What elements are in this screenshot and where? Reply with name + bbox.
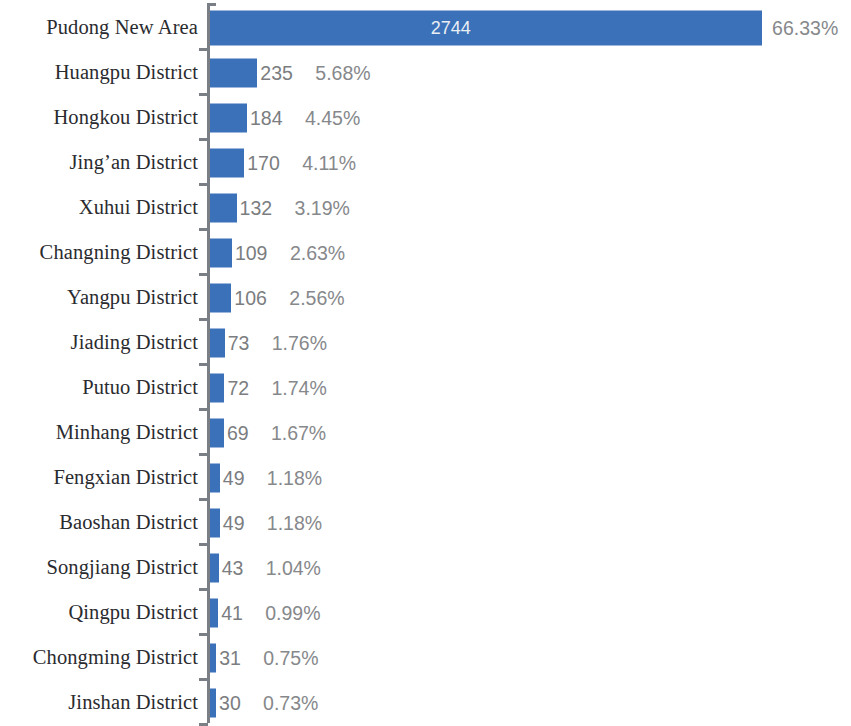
bar-row: Jinshan District300.73% <box>0 680 851 725</box>
bar-percent-label: 4.45% <box>305 106 360 129</box>
bar-row: Fengxian District491.18% <box>0 455 851 500</box>
bar-plot-area: 1844.45% <box>210 95 851 140</box>
category-label: Changning District <box>0 230 198 275</box>
bar-percent-label: 1.67% <box>271 421 326 444</box>
bar-plot-area: 721.74% <box>210 365 851 410</box>
bar <box>210 238 232 267</box>
bar-percent-label: 5.68% <box>315 61 370 84</box>
bar-value-label: 72 <box>227 376 249 399</box>
bar-plot-area: 491.18% <box>210 500 851 545</box>
bar <box>210 58 257 87</box>
bar-row: Songjiang District431.04% <box>0 545 851 590</box>
bar-plot-area: 2355.68% <box>210 50 851 95</box>
bar-percent-label: 2.63% <box>290 241 345 264</box>
category-label: Fengxian District <box>0 455 198 500</box>
bar-value-label: 184 <box>250 106 283 129</box>
bar-plot-area: 691.67% <box>210 410 851 455</box>
bar-row: Changning District1092.63% <box>0 230 851 275</box>
category-label: Putuo District <box>0 365 198 410</box>
bar-percent-label: 1.74% <box>271 376 326 399</box>
bar-value-label: 109 <box>235 241 268 264</box>
bar-value-label: 170 <box>247 151 280 174</box>
category-label: Chongming District <box>0 635 198 680</box>
bar-plot-area: 1323.19% <box>210 185 851 230</box>
bar-value-label: 49 <box>223 466 245 489</box>
category-label: Xuhui District <box>0 185 198 230</box>
bar <box>210 328 225 357</box>
bar-row: Putuo District721.74% <box>0 365 851 410</box>
bar-percent-label: 2.56% <box>289 286 344 309</box>
bar <box>210 643 216 672</box>
bar-row: Baoshan District491.18% <box>0 500 851 545</box>
category-label: Minhang District <box>0 410 198 455</box>
bar-plot-area: 1062.56% <box>210 275 851 320</box>
bar-percent-label: 1.76% <box>272 331 327 354</box>
bar-percent-label: 1.18% <box>267 466 322 489</box>
bar-value-label: 2744 <box>431 17 471 38</box>
category-label: Qingpu District <box>0 590 198 635</box>
bar-value-label: 30 <box>219 691 241 714</box>
bar-plot-area: 274466.33% <box>210 5 851 50</box>
bar-plot-area: 431.04% <box>210 545 851 590</box>
bar-value-label: 235 <box>260 61 293 84</box>
bar-percent-label: 66.33% <box>772 16 838 39</box>
bar-plot-area: 491.18% <box>210 455 851 500</box>
bar-plot-area: 310.75% <box>210 635 851 680</box>
bar-row: Hongkou District1844.45% <box>0 95 851 140</box>
bar <box>210 463 220 492</box>
bar <box>210 553 219 582</box>
bar-value-label: 69 <box>227 421 249 444</box>
bar-percent-label: 0.75% <box>263 646 318 669</box>
bar-plot-area: 300.73% <box>210 680 851 725</box>
bar-percent-label: 1.18% <box>267 511 322 534</box>
bar-row: Qingpu District410.99% <box>0 590 851 635</box>
category-label: Jiading District <box>0 320 198 365</box>
bar-plot-area: 731.76% <box>210 320 851 365</box>
bar <box>210 10 762 45</box>
category-label: Hongkou District <box>0 95 198 140</box>
category-label: Yangpu District <box>0 275 198 320</box>
bar-value-label: 31 <box>219 646 241 669</box>
bar <box>210 373 224 402</box>
bar-percent-label: 1.04% <box>266 556 321 579</box>
bar <box>210 598 218 627</box>
bar-value-label: 49 <box>223 511 245 534</box>
bar <box>210 103 247 132</box>
bar-percent-label: 3.19% <box>295 196 350 219</box>
bar <box>210 418 224 447</box>
category-label: Huangpu District <box>0 50 198 95</box>
bar-row: Minhang District691.67% <box>0 410 851 455</box>
bar-percent-label: 0.73% <box>263 691 318 714</box>
bar-value-label: 41 <box>221 601 243 624</box>
bar <box>210 688 216 717</box>
bar <box>210 148 244 177</box>
bar-row: Xuhui District1323.19% <box>0 185 851 230</box>
category-label: Pudong New Area <box>0 5 198 50</box>
bar-value-label: 43 <box>222 556 244 579</box>
bar-row: Yangpu District1062.56% <box>0 275 851 320</box>
bar-percent-label: 0.99% <box>265 601 320 624</box>
bar-row: Jing’an District1704.11% <box>0 140 851 185</box>
category-label: Jing’an District <box>0 140 198 185</box>
bar-row: Jiading District731.76% <box>0 320 851 365</box>
category-label: Songjiang District <box>0 545 198 590</box>
bar <box>210 508 220 537</box>
category-label: Jinshan District <box>0 680 198 725</box>
bar-plot-area: 1704.11% <box>210 140 851 185</box>
bar-value-label: 132 <box>240 196 273 219</box>
bar-value-label: 106 <box>234 286 267 309</box>
bar-row: Pudong New Area274466.33% <box>0 5 851 50</box>
bar-value-label: 73 <box>228 331 250 354</box>
bar <box>210 283 231 312</box>
bar-plot-area: 410.99% <box>210 590 851 635</box>
bar <box>210 193 237 222</box>
bar-row: Huangpu District2355.68% <box>0 50 851 95</box>
bar-percent-label: 4.11% <box>302 151 356 174</box>
category-label: Baoshan District <box>0 500 198 545</box>
bar-row: Chongming District310.75% <box>0 635 851 680</box>
bar-plot-area: 1092.63% <box>210 230 851 275</box>
